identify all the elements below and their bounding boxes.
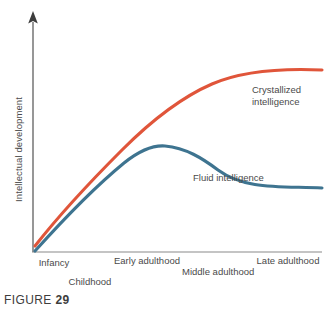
- figure-container: Intellectual development Infancy Childho…: [0, 0, 328, 314]
- figure-caption-word: FIGURE: [4, 293, 52, 307]
- y-axis-label: Intellectual development: [13, 70, 24, 230]
- x-tick-label-early-adulthood: Early adulthood: [113, 255, 181, 267]
- curve-fluid-intelligence: [35, 146, 322, 251]
- x-tick-label-childhood: Childhood: [54, 276, 126, 288]
- series-label-crystallized-line1: Crystallized: [252, 84, 301, 96]
- series-label-crystallized-intelligence: Crystallized intelligence: [252, 84, 301, 107]
- x-tick-label-late-adulthood: Late adulthood: [252, 255, 324, 267]
- x-tick-label-middle-adulthood: Middle adulthood: [182, 266, 248, 278]
- y-axis-arrow-icon: [28, 11, 38, 24]
- series-label-crystallized-line2: intelligence: [252, 96, 301, 108]
- x-tick-label-infancy: Infancy: [22, 257, 86, 269]
- figure-caption: FIGURE 29: [4, 293, 70, 307]
- series-label-fluid-intelligence: Fluid intelligence: [193, 172, 264, 184]
- figure-caption-number: 29: [55, 293, 69, 307]
